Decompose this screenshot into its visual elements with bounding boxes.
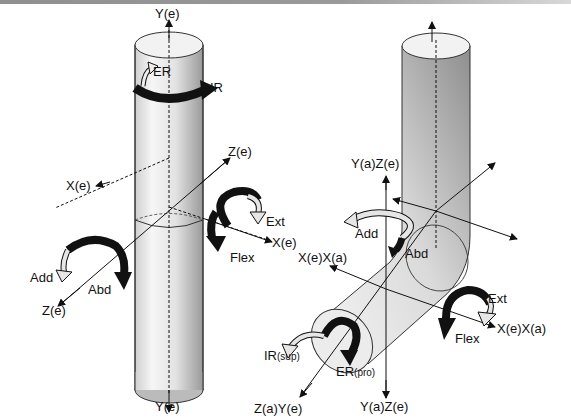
label-xe-xa-left: X(e)X(a): [298, 250, 347, 265]
label-ya-ze-bottom: Y(a)Z(e): [360, 399, 408, 414]
label-add: Add: [30, 270, 53, 285]
label-za-ye: Z(a)Y(e): [254, 401, 302, 416]
label-ir-sup: IR(sup): [264, 348, 300, 363]
label-z-top: Z(e): [228, 144, 252, 159]
label-abd: Abd: [88, 282, 111, 297]
label-z-bottom: Z(e): [42, 303, 66, 318]
joint-axes-diagram: Y(e) Y(e) Z(e) Z(e) X(e) X(e) ER IR Ext …: [0, 0, 571, 419]
label-ir: IR: [210, 80, 223, 95]
abd-arrow-right-icon: [396, 238, 402, 250]
label-flex: Flex: [230, 250, 255, 265]
label-ext: Ext: [266, 214, 285, 229]
label-y-bottom: Y(e): [155, 399, 180, 414]
label-er-pro: ER(pro): [336, 364, 375, 379]
label-ext-right: Ext: [488, 291, 507, 306]
label-ya-ze-top: Y(a)Z(e): [351, 156, 399, 171]
label-x-right: X(e): [272, 235, 297, 250]
label-xe-xa-right: X(e)X(a): [497, 321, 546, 336]
label-add-right: Add: [355, 226, 378, 241]
label-er: ER: [153, 64, 171, 79]
label-y-top: Y(e): [155, 6, 180, 21]
label-abd-right: Abd: [405, 246, 428, 261]
label-flex-right: Flex: [455, 331, 480, 346]
label-x-left: X(e): [66, 178, 91, 193]
